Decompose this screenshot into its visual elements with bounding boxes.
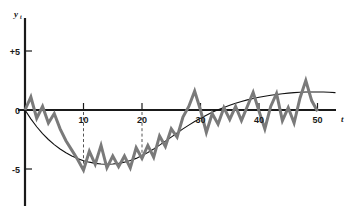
y-axis-title-text: y [13,9,19,19]
x-tick-label-20: 20 [137,115,147,125]
x-tick-label-group: 1020304050 [78,115,322,125]
y-axis-title-subscript: t [20,14,22,20]
y-axis-title: y t [13,9,22,20]
axes-group [18,18,336,206]
x-tick-label-50: 50 [312,115,322,125]
x-tick-label-40: 40 [254,115,264,125]
y-tick-label-group: +50-5 [10,47,20,175]
chart-figure: 1020304050 +50-5 y t t [0,0,350,220]
y-tick-label-0: 0 [15,106,20,116]
x-tick-label-10: 10 [78,115,88,125]
observed-series-line [25,81,318,171]
x-axis-title-text: t [341,114,344,124]
y-tick-label-minus5: -5 [12,165,20,175]
y-tick-label-plus5: +5 [10,47,20,57]
x-tick-label-30: 30 [195,115,205,125]
chart-canvas: 1020304050 +50-5 y t t [0,0,350,220]
